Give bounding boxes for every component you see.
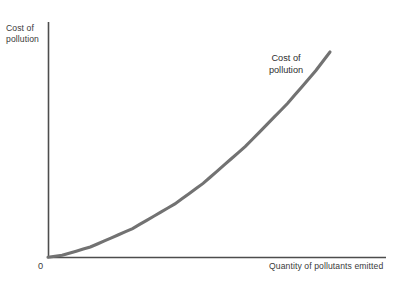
cost-of-pollution-curve-label: Cost of pollution xyxy=(249,52,323,76)
chart-figure: Cost of pollution Quantity of pollutants… xyxy=(0,0,395,286)
x-axis-label: Quantity of pollutants emitted xyxy=(269,261,383,272)
origin-label: 0 xyxy=(38,261,43,272)
chart-plot-area xyxy=(0,0,395,286)
cost-of-pollution-curve xyxy=(48,52,330,257)
y-axis-label: Cost of pollution xyxy=(6,23,39,45)
